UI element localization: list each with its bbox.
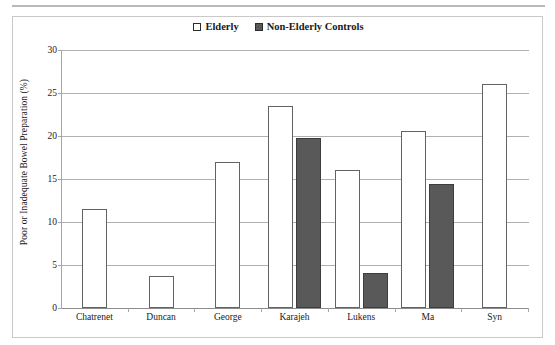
bar-duncan-elderly[interactable] bbox=[149, 276, 174, 308]
x-axis-label-karajeh: Karajeh bbox=[279, 312, 309, 322]
y-tick-label-5: 5 bbox=[52, 260, 57, 270]
x-axis-label-ma: Ma bbox=[422, 312, 435, 322]
x-axis-label-syn: Syn bbox=[487, 312, 502, 322]
bar-george-elderly[interactable] bbox=[215, 162, 240, 308]
plot-wrapper: 051015202530 ChatrenetDuncanGeorgeKaraje… bbox=[13, 17, 544, 339]
bar-ma-elderly[interactable] bbox=[401, 131, 426, 308]
y-tick-label-10: 10 bbox=[48, 217, 58, 227]
bars-layer bbox=[61, 50, 528, 308]
y-tick-label-25: 25 bbox=[48, 88, 58, 98]
x-axis-label-chatrenet: Chatrenet bbox=[76, 312, 113, 322]
x-axis-label-duncan: Duncan bbox=[146, 312, 176, 322]
bar-lukens-elderly[interactable] bbox=[335, 170, 360, 308]
y-tick-label-30: 30 bbox=[48, 45, 58, 55]
bar-lukens-control[interactable] bbox=[363, 273, 388, 308]
y-tick-label-20: 20 bbox=[48, 131, 58, 141]
x-axis-label-lukens: Lukens bbox=[347, 312, 375, 322]
y-tick-label-15: 15 bbox=[48, 174, 58, 184]
y-tick-mark-0 bbox=[58, 308, 62, 309]
y-tick-label-0: 0 bbox=[52, 303, 57, 313]
bar-karajeh-elderly[interactable] bbox=[268, 106, 293, 308]
bar-karajeh-control[interactable] bbox=[296, 138, 321, 308]
bar-ma-control[interactable] bbox=[429, 184, 454, 308]
gridline-0 bbox=[62, 308, 529, 309]
bar-chatrenet-elderly[interactable] bbox=[82, 209, 107, 308]
x-axis-labels: ChatrenetDuncanGeorgeKarajehLukensMaSyn bbox=[61, 312, 528, 328]
top-divider-rule bbox=[12, 5, 545, 7]
chart-figure-frame: Elderly Non-Elderly Controls Poor or Ina… bbox=[12, 16, 543, 338]
x-tick-mark-syn bbox=[528, 308, 529, 312]
x-axis-label-george: George bbox=[214, 312, 242, 322]
bar-syn-elderly[interactable] bbox=[482, 84, 507, 308]
